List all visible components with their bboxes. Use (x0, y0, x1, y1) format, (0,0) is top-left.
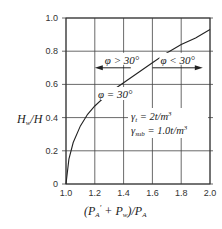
label-gamma-t: γt = 2t/m3 (131, 110, 172, 124)
x-tick-label: 1.8 (175, 188, 188, 198)
y-axis-ticks: 00.20.40.60.81.0 (45, 13, 58, 189)
x-tick-label: 2.0 (204, 188, 217, 198)
label-phi-gt-30: φ > 30° (105, 54, 140, 66)
curve-phi-30 (66, 30, 210, 184)
y-axis-label: Hw/H (16, 112, 44, 127)
chart: 00.20.40.60.81.0 1.01.21.41.61.82.0 φ > … (0, 0, 222, 229)
arrow-phi-gt-30: φ > 30° (95, 53, 146, 71)
y-tick-label: 0 (53, 179, 58, 189)
label-phi-lt-30: φ < 30° (160, 54, 195, 66)
grid (62, 18, 213, 184)
x-tick-label: 1.2 (89, 188, 102, 198)
x-axis-label: (PA′ + Pw)/PA (84, 204, 147, 219)
x-tick-label: 1.0 (60, 188, 73, 198)
plot-frame (66, 18, 210, 184)
x-axis-ticks: 1.01.21.41.61.82.0 (60, 188, 217, 198)
y-tick-label: 0.4 (45, 113, 58, 123)
label-phi-eq-30: φ = 30° (98, 88, 133, 100)
y-tick-label: 1.0 (45, 13, 58, 23)
x-tick-label: 1.6 (146, 188, 159, 198)
arrow-phi-lt-30: φ < 30° (152, 53, 202, 71)
y-tick-label: 0.8 (45, 46, 58, 56)
y-tick-label: 0.6 (45, 79, 58, 89)
x-tick-label: 1.4 (117, 188, 130, 198)
y-tick-label: 0.2 (45, 146, 58, 156)
